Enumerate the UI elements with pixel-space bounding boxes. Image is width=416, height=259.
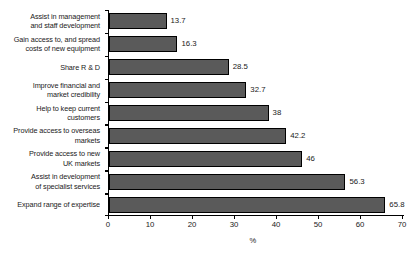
x-axis-tick-label: 10 (138, 221, 162, 229)
bar-value-label: 38 (273, 109, 282, 117)
x-axis-tick-label: 70 (390, 221, 414, 229)
x-axis-tick (192, 215, 193, 219)
bar-value-label: 42.2 (290, 132, 305, 140)
bar (109, 59, 229, 75)
bar-row: 28.5 (109, 59, 269, 75)
bar-row: 42.2 (109, 128, 326, 144)
bar (109, 151, 302, 167)
bar (109, 197, 385, 213)
bar-row: 46 (109, 151, 342, 167)
y-axis-tick (105, 193, 109, 194)
x-axis-tick (402, 215, 403, 219)
bar-row: 13.7 (109, 13, 207, 29)
x-axis-tick-label: 20 (180, 221, 204, 229)
bar-row: 56.3 (109, 174, 385, 190)
x-axis-tick-label: 60 (348, 221, 372, 229)
x-axis-tick (150, 215, 151, 219)
x-axis-tick-label: 50 (306, 221, 330, 229)
x-axis-tick-label: 0 (96, 221, 120, 229)
bar-row: 16.3 (109, 36, 217, 52)
y-axis-tick (105, 102, 109, 103)
x-axis-tick (360, 215, 361, 219)
bar (109, 105, 269, 121)
category-label: Provide access to overseas markets (4, 126, 100, 145)
x-axis-tick (108, 215, 109, 219)
y-axis-tick (105, 124, 109, 125)
bar (109, 13, 167, 29)
bar-row: 65.8 (109, 197, 416, 213)
bar-value-label: 32.7 (250, 86, 265, 94)
bar-value-label: 13.7 (171, 17, 186, 25)
bar-chart: Assist in management and staff developme… (0, 0, 416, 259)
category-label: Improve financial and market credibility (4, 81, 100, 100)
bar-value-label: 46 (306, 155, 315, 163)
y-axis-tick (105, 170, 109, 171)
bar-value-label: 56.3 (349, 178, 364, 186)
plot-area: 13.7 16.3 28.5 32.7 38 42.2 46 56.3 (108, 10, 404, 216)
category-label: Gain access to, and spread costs of new … (4, 35, 100, 54)
category-label: Provide access to new UK markets (4, 149, 100, 168)
y-axis-tick (105, 33, 109, 34)
bar-row: 32.7 (109, 82, 286, 98)
x-axis-tick (234, 215, 235, 219)
bar-value-label: 28.5 (233, 63, 248, 71)
category-label: Assist in management and staff developme… (4, 12, 100, 31)
bar (109, 128, 286, 144)
category-label: Share R & D (4, 63, 100, 72)
bar-value-label: 16.3 (181, 40, 196, 48)
bar-value-label: 65.8 (389, 201, 404, 209)
category-label: Assist in development of specialist serv… (4, 172, 100, 191)
x-axis-tick-label: 30 (222, 221, 246, 229)
x-axis-title: % (241, 236, 265, 245)
bar (109, 36, 177, 52)
category-label: Expand range of expertise (4, 200, 100, 209)
y-axis-tick (105, 10, 109, 11)
x-axis-tick-label: 40 (264, 221, 288, 229)
category-axis: Assist in management and staff developme… (0, 10, 104, 216)
y-axis-tick (105, 147, 109, 148)
category-label: Help to keep current customers (4, 104, 100, 123)
bar-row: 38 (109, 105, 309, 121)
x-axis-tick (318, 215, 319, 219)
y-axis-tick (105, 79, 109, 80)
bar (109, 174, 345, 190)
x-axis-tick (276, 215, 277, 219)
bar (109, 82, 246, 98)
y-axis-tick (105, 56, 109, 57)
